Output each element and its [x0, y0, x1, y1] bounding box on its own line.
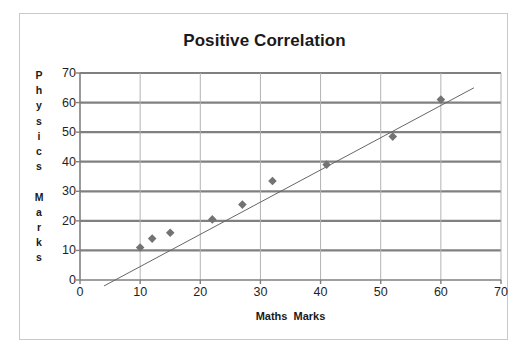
axis-lines — [80, 73, 501, 280]
plot-area — [80, 73, 501, 280]
x-axis-tick-labels: 010203040506070 — [80, 285, 501, 305]
data-point-marker — [388, 132, 397, 141]
chart-screenshot: Positive Correlation Physics Marks 01020… — [0, 0, 528, 355]
chart-frame: Positive Correlation Physics Marks 01020… — [19, 13, 508, 340]
trendline — [104, 88, 474, 286]
data-point-marker — [166, 228, 175, 237]
x-axis-tick-label: 10 — [133, 285, 147, 299]
x-axis-tick-label: 40 — [314, 285, 328, 299]
x-axis-tick-label: 70 — [494, 285, 508, 299]
y-axis-tick-label: 60 — [62, 96, 76, 110]
x-axis-tick-label: 50 — [374, 285, 388, 299]
y-axis-tick-label: 40 — [62, 155, 76, 169]
data-point-marker — [148, 234, 157, 243]
y-axis-tick-label: 70 — [62, 66, 76, 80]
data-point-marker — [238, 200, 247, 209]
y-axis-tick-label: 0 — [69, 273, 76, 287]
x-axis-tick-label: 20 — [193, 285, 207, 299]
data-point-marker — [208, 215, 217, 224]
y-axis-tick-label: 30 — [62, 184, 76, 198]
x-axis-tick-label: 60 — [434, 285, 448, 299]
data-markers — [136, 95, 445, 251]
trendline — [104, 88, 474, 286]
data-point-marker — [268, 177, 277, 186]
y-axis-tick-label: 10 — [62, 243, 76, 257]
y-axis-tick-label: 50 — [62, 125, 76, 139]
plot-svg — [80, 73, 501, 280]
y-axis-tick-labels: 010203040506070 — [34, 73, 76, 280]
x-axis-tick-label: 0 — [77, 285, 84, 299]
x-axis-tick-label: 30 — [253, 285, 267, 299]
grid-lines-vertical — [140, 73, 501, 280]
chart-title: Positive Correlation — [20, 31, 509, 51]
x-axis-title: Maths Marks — [80, 310, 501, 322]
y-axis-tick-label: 20 — [62, 214, 76, 228]
